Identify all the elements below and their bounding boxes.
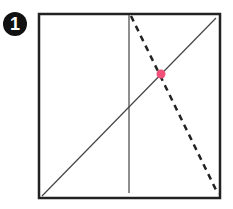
intersection-point bbox=[157, 70, 166, 79]
fold-diagram bbox=[0, 0, 233, 209]
dashed-fold-line bbox=[131, 16, 218, 194]
